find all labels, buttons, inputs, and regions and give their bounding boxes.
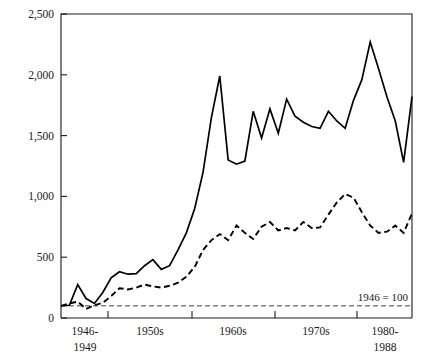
x-axis-tick-label: 1950s <box>136 325 164 337</box>
x-axis-ticks <box>108 311 357 318</box>
line-chart: 05001,0001,5002,0002,500 1946-19491950s1… <box>0 0 438 362</box>
x-axis-tick-label-line2: 1949 <box>74 341 97 353</box>
x-axis-tick-label: 1946- <box>72 325 99 337</box>
y-axis-ticks <box>61 14 67 318</box>
baseline-annotation: 1946 = 100 <box>358 291 409 303</box>
x-axis-tick-label: 1980- <box>372 325 399 337</box>
x-axis-tick-label: 1970s <box>302 325 330 337</box>
x-axis-tick-labels: 1946-19491950s1960s1970s1980-1988 <box>72 325 399 353</box>
y-axis-tick-label: 2,000 <box>28 69 54 82</box>
y-axis-tick-label: 1,000 <box>28 190 54 203</box>
series-line-solid <box>61 42 412 306</box>
y-axis-tick-label: 2,500 <box>28 8 54 21</box>
y-axis-tick-label: 1,500 <box>28 130 54 143</box>
axis-frame <box>61 14 412 318</box>
y-axis-tick-label: 500 <box>37 251 55 263</box>
plot-frame <box>61 14 412 318</box>
x-axis-tick-label: 1960s <box>219 325 247 337</box>
chart-container: 05001,0001,5002,0002,500 1946-19491950s1… <box>0 0 438 362</box>
x-axis-tick-label-line2: 1988 <box>374 341 397 353</box>
y-axis-tick-label: 0 <box>48 312 54 324</box>
y-axis-tick-labels: 05001,0001,5002,0002,500 <box>28 8 54 324</box>
